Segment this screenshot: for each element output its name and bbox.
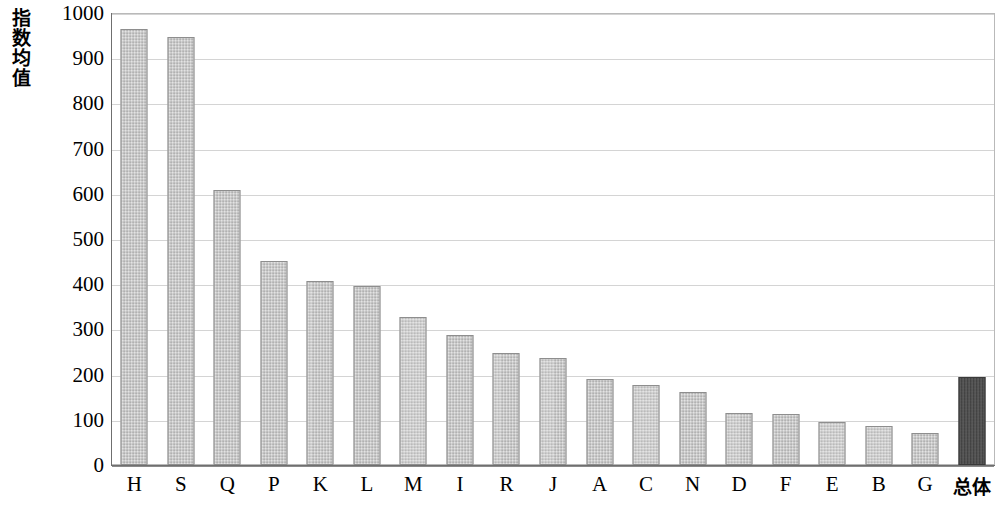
bar-slot: [204, 13, 251, 465]
bar-slot: [809, 13, 856, 465]
bar-chart: 指数均值 10009008007006005004003002001000 HS…: [0, 0, 1003, 505]
y-tick-label: 700: [42, 136, 104, 161]
x-tick-label: R: [499, 472, 513, 497]
x-axis-line: [111, 465, 995, 466]
bar[interactable]: [912, 433, 939, 465]
y-tick-label: 100: [42, 407, 104, 432]
bar-slot: [716, 13, 763, 465]
x-tick-label: I: [456, 472, 463, 497]
x-tick-label: S: [175, 472, 187, 497]
x-tick-label: K: [313, 472, 328, 497]
x-tick-label: D: [732, 472, 747, 497]
bar[interactable]: [353, 286, 380, 465]
y-tick-label: 800: [42, 91, 104, 116]
bar[interactable]: [726, 413, 753, 465]
bar-slot: [344, 13, 391, 465]
x-tick-label: F: [780, 472, 792, 497]
y-axis-tick-labels: 10009008007006005004003002001000: [36, 0, 104, 505]
bar-slot: [530, 13, 577, 465]
bar[interactable]: [539, 358, 566, 465]
y-tick-label: 300: [42, 317, 104, 342]
bar-slot: [669, 13, 716, 465]
bar-slot: [483, 13, 530, 465]
y-tick-label: 1000: [42, 1, 104, 26]
x-tick-label: P: [268, 472, 280, 497]
x-tick-label: E: [826, 472, 839, 497]
x-tick-label: J: [549, 472, 557, 497]
bars-layer: [111, 13, 995, 465]
x-tick-label: H: [127, 472, 142, 497]
bar[interactable]: [214, 190, 241, 465]
bar[interactable]: [307, 281, 334, 465]
bar-slot: [623, 13, 670, 465]
x-tick-label: C: [639, 472, 653, 497]
y-tick-label: 900: [42, 46, 104, 71]
bar-slot: [855, 13, 902, 465]
gridline: [112, 466, 994, 467]
x-axis-tick-labels: HSQPKLMIRJACNDFEBG总体: [111, 472, 995, 505]
bar-highlight[interactable]: [958, 377, 985, 465]
bar[interactable]: [400, 317, 427, 465]
bar[interactable]: [865, 426, 892, 465]
bar-slot: [111, 13, 158, 465]
bar[interactable]: [772, 414, 799, 465]
bar[interactable]: [493, 353, 520, 465]
x-tick-label: L: [360, 472, 373, 497]
y-axis-title-char: 值: [6, 68, 36, 88]
bar-slot: [762, 13, 809, 465]
y-tick-label: 500: [42, 227, 104, 252]
y-axis-title-char: 数: [6, 28, 36, 48]
y-axis-title: 指数均值: [6, 8, 36, 89]
bar-slot: [902, 13, 949, 465]
bar[interactable]: [819, 422, 846, 465]
bar-slot: [251, 13, 298, 465]
x-tick-label: A: [592, 472, 607, 497]
y-tick-label: 0: [42, 453, 104, 478]
y-axis-title-char: 均: [6, 48, 36, 68]
y-tick-label: 400: [42, 272, 104, 297]
bar-slot: [948, 13, 995, 465]
x-tick-label: B: [872, 472, 886, 497]
x-tick-label: 总体: [953, 472, 991, 499]
bar-slot: [158, 13, 205, 465]
x-tick-label: G: [918, 472, 933, 497]
bar-slot: [297, 13, 344, 465]
bar[interactable]: [446, 335, 473, 465]
bar[interactable]: [633, 385, 660, 465]
x-tick-label: N: [685, 472, 700, 497]
x-tick-label: Q: [220, 472, 235, 497]
y-axis-title-char: 指: [6, 8, 36, 28]
bar[interactable]: [260, 261, 287, 465]
bar[interactable]: [586, 379, 613, 465]
bar[interactable]: [121, 29, 148, 465]
bar[interactable]: [167, 37, 194, 465]
bar-slot: [390, 13, 437, 465]
x-tick-label: M: [404, 472, 423, 497]
y-tick-label: 200: [42, 362, 104, 387]
bar[interactable]: [679, 392, 706, 465]
y-tick-label: 600: [42, 181, 104, 206]
bar-slot: [576, 13, 623, 465]
bar-slot: [437, 13, 484, 465]
